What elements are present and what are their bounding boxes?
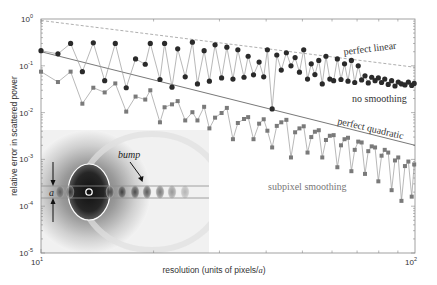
y-tick-label: 10-4 [19,200,33,211]
data-point-no-smoothing [356,63,361,68]
data-point-subpixel-smoothing [124,110,128,114]
data-point-no-smoothing [246,54,251,59]
data-point-no-smoothing [202,48,207,53]
data-point-subpixel-smoothing [279,120,283,124]
data-point-no-smoothing [148,41,153,46]
data-point-subpixel-smoothing [257,122,261,126]
data-point-subpixel-smoothing [346,136,350,140]
data-point-subpixel-smoothing [293,130,297,134]
data-point-no-smoothing [316,58,321,63]
data-point-subpixel-smoothing [366,149,370,153]
data-point-subpixel-smoothing [39,70,43,74]
data-point-no-smoothing [102,78,107,83]
data-point-no-smoothing [212,42,217,47]
data-point-no-smoothing [389,78,394,83]
x-tick-label: 102 [405,256,417,267]
data-point-subpixel-smoothing [190,110,194,114]
data-point-no-smoothing [352,80,357,85]
data-point-no-smoothing [124,85,129,90]
data-point-no-smoothing [162,41,167,46]
data-point-no-smoothing [143,62,148,67]
data-point-no-smoothing [338,77,343,82]
data-point-subpixel-smoothing [324,138,328,142]
data-point-subpixel-smoothing [309,135,313,139]
data-point-subpixel-smoothing [207,126,211,130]
data-point-subpixel-smoothing [297,126,301,130]
data-point-no-smoothing [270,106,275,111]
data-point-subpixel-smoothing [202,105,206,109]
data-point-no-smoothing [301,47,306,52]
data-point-no-smoothing [183,74,188,79]
data-point-subpixel-smoothing [328,134,332,138]
data-point-subpixel-smoothing [412,162,416,166]
data-point-subpixel-smoothing [390,188,394,192]
x-tick-label: 101 [31,256,43,267]
data-point-subpixel-smoothing [306,151,310,155]
data-point-subpixel-smoothing [302,124,306,128]
data-point-subpixel-smoothing [220,111,224,115]
data-point-subpixel-smoothing [103,90,107,94]
data-point-no-smoothing [297,70,302,75]
data-point-subpixel-smoothing [270,145,274,149]
data-point-no-smoothing [284,50,289,55]
data-point-subpixel-smoothing [349,169,353,173]
data-point-subpixel-smoothing [386,151,390,155]
y-tick-labels: 10010-110-210-310-410-5 [19,13,33,258]
annotation-perfect-linear: perfect linear [343,40,398,57]
inset-core [68,164,110,220]
annotation-subpixel-smoothing: subpixel smoothing [268,181,347,192]
data-point-subpixel-smoothing [317,128,321,132]
data-point-no-smoothing [342,61,347,66]
data-point-no-smoothing [230,76,235,81]
data-point-no-smoothing [293,55,298,60]
data-point-subpixel-smoothing [183,118,187,122]
data-point-no-smoothing [169,85,174,90]
data-point-subpixel-smoothing [335,165,339,169]
data-point-no-smoothing [362,73,367,78]
inset-lobe [118,186,126,199]
data-point-subpixel-smoothing [396,155,400,159]
data-point-subpixel-smoothing [195,118,199,122]
data-point-no-smoothing [412,81,417,86]
data-point-subpixel-smoothing [231,137,235,141]
y-tick-label: 100 [21,13,33,24]
data-point-subpixel-smoothing [380,154,384,158]
data-point-subpixel-smoothing [246,115,250,119]
data-point-subpixel-smoothing [148,88,152,92]
data-point-no-smoothing [349,58,354,63]
annotation-no-smoothing: no smoothing [352,93,407,104]
x-axis-label-close: ) [263,265,266,275]
data-point-subpixel-smoothing [265,129,269,133]
data-point-subpixel-smoothing [313,130,317,134]
y-tick-label: 10-5 [19,247,33,258]
data-point-no-smoothing [366,80,371,85]
inset-field-image: a bump [27,130,222,254]
inset-lobe [106,186,114,199]
data-point-subpixel-smoothing [284,118,288,122]
data-point-subpixel-smoothing [360,140,364,144]
y-tick-label: 10-3 [19,153,33,164]
chart: a bump perfect linear no smoothing perfe… [0,0,437,285]
data-point-subpixel-smoothing [376,179,380,183]
data-point-subpixel-smoothing [236,121,240,125]
data-point-no-smoothing [288,63,293,68]
data-point-subpixel-smoothing [163,105,167,109]
data-point-no-smoothing [274,52,279,57]
data-point-no-smoothing [207,79,212,84]
data-point-no-smoothing [265,47,270,52]
data-point-subpixel-smoothing [373,145,377,149]
data-point-subpixel-smoothing [69,70,73,74]
data-point-no-smoothing [331,78,336,83]
data-point-no-smoothing [251,72,256,77]
x-axis-label: resolution (units of pixels/a) [162,265,265,275]
data-point-no-smoothing [113,41,118,46]
data-point-no-smoothing [241,75,246,80]
y-tick-label: 10-2 [19,107,33,118]
data-point-no-smoothing [91,40,96,45]
inset-lobe [143,186,151,199]
inset-lobe [131,186,139,199]
bump-label: bump [118,149,140,160]
data-point-no-smoothing [224,45,229,50]
data-point-subpixel-smoothing [356,140,360,144]
data-point-subpixel-smoothing [143,98,147,102]
